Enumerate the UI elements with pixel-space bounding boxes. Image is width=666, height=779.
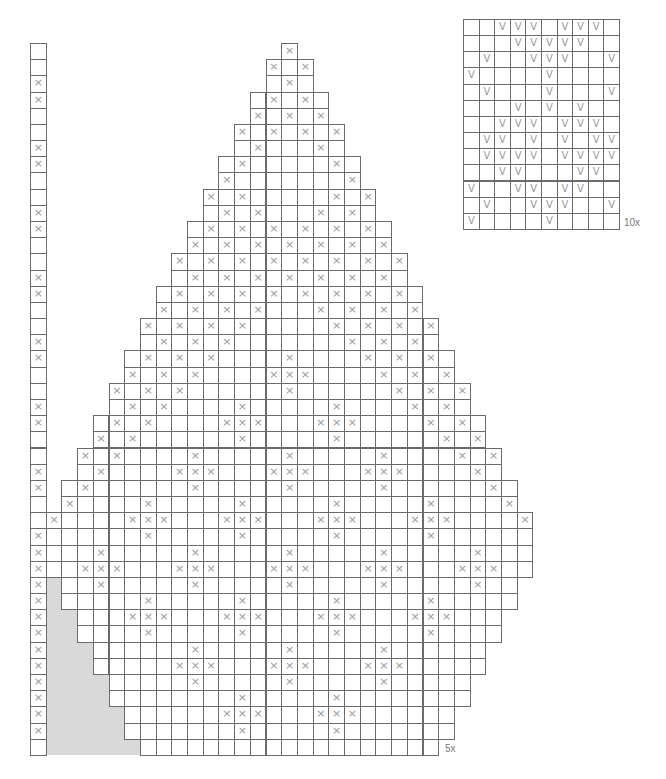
stitch-cell [171, 706, 188, 723]
stitch-cell [218, 318, 235, 335]
stitch-cell [438, 723, 455, 740]
stitch-cell-x: × [328, 399, 345, 416]
stitch-cell [156, 674, 173, 691]
stitch-cell [250, 464, 267, 481]
stitch-cell [470, 528, 487, 545]
stitch-cell-x: × [375, 642, 392, 659]
stitch-cell-x: × [187, 674, 204, 691]
stitch-cell [407, 350, 424, 367]
stitch-cell [234, 480, 251, 497]
stitch-cell-v: V [479, 132, 496, 149]
stitch-cell-x: × [281, 658, 298, 675]
stitch-cell [360, 270, 377, 287]
stitch-cell [557, 213, 574, 230]
stitch-cell [30, 739, 47, 756]
small-repeat-label: 10x [624, 217, 640, 228]
stitch-cell [250, 318, 267, 335]
stitch-cell [250, 642, 267, 659]
stitch-cell-x: × [328, 156, 345, 173]
stitch-cell [407, 706, 424, 723]
stitch-cell [360, 480, 377, 497]
stitch-cell [572, 51, 589, 68]
stitch-cell [360, 593, 377, 610]
stitch-cell-v: V [479, 84, 496, 101]
stitch-cell-x: × [218, 270, 235, 287]
stitch-cell [77, 528, 94, 545]
stitch-cell-x: × [360, 350, 377, 367]
stitch-cell [360, 237, 377, 254]
stitch-cell [171, 674, 188, 691]
stitch-cell [423, 706, 440, 723]
stitch-cell [234, 464, 251, 481]
stitch-cell-x: × [281, 464, 298, 481]
stitch-cell-x: × [250, 108, 267, 125]
stitch-cell [360, 739, 377, 756]
stitch-cell [438, 593, 455, 610]
stitch-cell [297, 189, 314, 206]
stitch-cell [328, 205, 345, 222]
stitch-cell-x: × [423, 350, 440, 367]
stitch-cell-x: × [140, 609, 157, 626]
stitch-cell-v: V [510, 100, 527, 117]
stitch-cell [266, 302, 283, 319]
stitch-cell-x: × [218, 512, 235, 529]
stitch-cell [360, 415, 377, 432]
stitch-cell-x: × [187, 561, 204, 578]
stitch-cell [281, 59, 298, 76]
stitch-cell [297, 334, 314, 351]
stitch-cell [603, 213, 620, 230]
stitch-cell [297, 383, 314, 400]
stitch-cell-x: × [297, 367, 314, 384]
stitch-cell [203, 302, 220, 319]
stitch-cell [407, 496, 424, 513]
stitch-cell-x: × [423, 625, 440, 642]
stitch-cell-x: × [156, 399, 173, 416]
stitch-cell-v: V [557, 19, 574, 36]
stitch-cell [266, 642, 283, 659]
stitch-cell-x: × [360, 221, 377, 238]
stitch-cell [360, 448, 377, 465]
stitch-cell [250, 383, 267, 400]
stitch-cell-x: × [407, 302, 424, 319]
stitch-cell [250, 367, 267, 384]
stitch-cell-v: V [525, 51, 542, 68]
stitch-cell [375, 723, 392, 740]
stitch-cell-x: × [454, 415, 471, 432]
stitch-cell [603, 116, 620, 133]
stitch-cell-x: × [140, 593, 157, 610]
stitch-cell [313, 156, 330, 173]
stitch-cell [93, 448, 110, 465]
stitch-cell [360, 302, 377, 319]
stitch-cell [93, 642, 110, 659]
stitch-cell-x: × [328, 189, 345, 206]
stitch-cell-x: × [297, 658, 314, 675]
stitch-cell [407, 431, 424, 448]
stitch-cell [250, 253, 267, 270]
stitch-cell [124, 674, 141, 691]
stitch-cell-x: × [187, 237, 204, 254]
stitch-cell-v: V [525, 19, 542, 36]
stitch-cell [391, 270, 408, 287]
stitch-cell [250, 334, 267, 351]
stitch-cell-x: × [234, 593, 251, 610]
stitch-cell-x: × [470, 577, 487, 594]
stitch-cell-x: × [140, 625, 157, 642]
stitch-cell-x: × [234, 189, 251, 206]
stitch-cell-x: × [438, 431, 455, 448]
stitch-cell-v: V [463, 67, 480, 84]
stitch-cell-x: × [328, 593, 345, 610]
stitch-cell [603, 164, 620, 181]
stitch-cell [517, 561, 534, 578]
stitch-cell [281, 399, 298, 416]
stitch-cell [124, 706, 141, 723]
stitch-cell-v: V [463, 213, 480, 230]
stitch-cell [140, 367, 157, 384]
stitch-cell [344, 723, 361, 740]
stitch-cell [266, 577, 283, 594]
stitch-cell [454, 674, 471, 691]
stitch-cell-x: × [375, 334, 392, 351]
stitch-cell [266, 189, 283, 206]
stitch-cell [171, 545, 188, 562]
stitch-cell [423, 431, 440, 448]
stitch-cell [218, 399, 235, 416]
